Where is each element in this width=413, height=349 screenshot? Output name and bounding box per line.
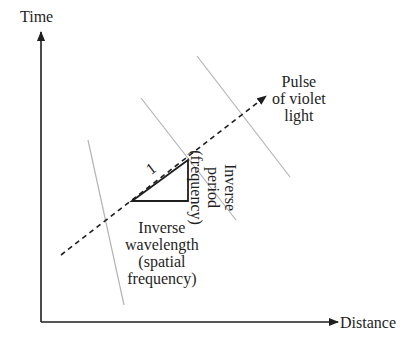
pulse-label-line: Pulse	[272, 73, 326, 90]
inverse-wavelength-line: (spatial	[125, 253, 199, 270]
pulse-label-line: light	[272, 107, 326, 124]
inverse-period-line: period	[205, 128, 222, 248]
inverse-period-line: Inverse	[222, 128, 239, 248]
pulse-label: Pulse of violet light	[272, 73, 326, 124]
distance-axis-label: Distance	[340, 314, 396, 331]
time-axis-label: Time	[20, 8, 53, 25]
pulse-label-line: of violet	[272, 90, 326, 107]
inverse-period-line: (frequency)	[188, 128, 205, 248]
inverse-period-label: Inverse period (frequency)	[188, 128, 239, 248]
inverse-wavelength-line: frequency)	[125, 270, 199, 287]
frequency-triangle	[132, 160, 188, 201]
wavefront-line	[88, 140, 124, 305]
